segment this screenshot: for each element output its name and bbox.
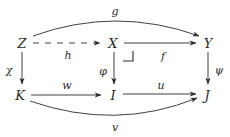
edge-label-u: u [157,80,164,91]
edge-label-phi: φ [99,66,107,77]
edge-label-chi: χ [6,65,13,76]
edge-label-v: v [112,122,118,133]
node-I: I [110,89,115,102]
edge-label-psi: ψ [215,65,224,76]
node-X: X [108,37,117,50]
node-Y: Y [204,37,213,50]
edge-g-arrow [33,21,199,36]
edge-label-w: w [62,80,71,91]
node-Z: Z [17,37,26,50]
pullback-square-marker [123,51,133,61]
commutative-diagram: X dashed --> Z X Y K I J g h f χ φ ψ w u… [0,0,230,137]
edge-label-f: f [161,51,165,62]
node-K: K [15,89,25,102]
edge-label-h: h [64,50,71,61]
edge-label-g: g [111,6,118,17]
diagram-canvas: X dashed --> [0,0,230,137]
node-J: J [204,89,209,102]
